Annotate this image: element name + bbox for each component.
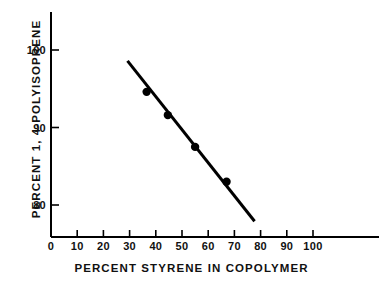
x-tick-label: 50 (176, 241, 189, 252)
x-tick-label: 10 (71, 241, 84, 252)
x-axis-ticks (51, 230, 313, 237)
fit-line (128, 61, 255, 221)
x-tick-label: 100 (303, 241, 322, 252)
x-tick-label: 30 (123, 241, 136, 252)
plot-area (0, 0, 383, 284)
chart-figure: 0102030405060708090100 8090100 PERCENT S… (0, 0, 383, 284)
x-tick-label: 70 (228, 241, 241, 252)
data-point (191, 143, 199, 151)
x-axis-title: PERCENT STYRENE IN COPOLYMER (0, 262, 383, 274)
y-axis-ticks (51, 50, 59, 205)
x-tick-label: 20 (97, 241, 110, 252)
data-point (142, 88, 150, 96)
x-tick-label: 0 (48, 241, 54, 252)
x-tick-label: 60 (202, 241, 215, 252)
y-axis-title: PERCENT 1, 4-POLYISOPRENE (30, 19, 42, 219)
data-point (222, 178, 230, 186)
x-tick-label: 90 (280, 241, 293, 252)
data-point (164, 111, 172, 119)
x-tick-label: 40 (149, 241, 162, 252)
x-tick-label: 80 (254, 241, 267, 252)
